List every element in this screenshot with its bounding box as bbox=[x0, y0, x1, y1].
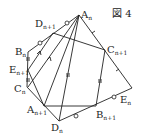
label-D-n: Dn bbox=[51, 122, 63, 134]
label-E-n: En bbox=[120, 94, 131, 106]
figure-svg: 図 4 An Dn+1 Bn En+1 Cn An+1 Dn Bn+1 En C… bbox=[0, 0, 141, 140]
label-C-n: Cn bbox=[14, 83, 26, 95]
label-A-n: An bbox=[80, 9, 92, 21]
label-B-n: Bn bbox=[15, 46, 26, 58]
label-D-n+1: Dn+1 bbox=[35, 18, 56, 30]
equal-length-markers bbox=[38, 21, 116, 118]
geometry-figure: 図 4 An Dn+1 Bn En+1 Cn An+1 Dn Bn+1 En C… bbox=[0, 0, 141, 140]
label-C-n+1: Cn+1 bbox=[107, 44, 127, 56]
outer-pentagon bbox=[27, 15, 132, 121]
diagonals bbox=[28, 15, 79, 121]
label-B-n+1: Bn+1 bbox=[96, 109, 116, 121]
figure-title: 図 4 bbox=[112, 8, 132, 19]
tick-marks bbox=[26, 31, 119, 82]
label-E-n+1: En+1 bbox=[9, 64, 29, 76]
parallel-arrows bbox=[37, 51, 51, 61]
